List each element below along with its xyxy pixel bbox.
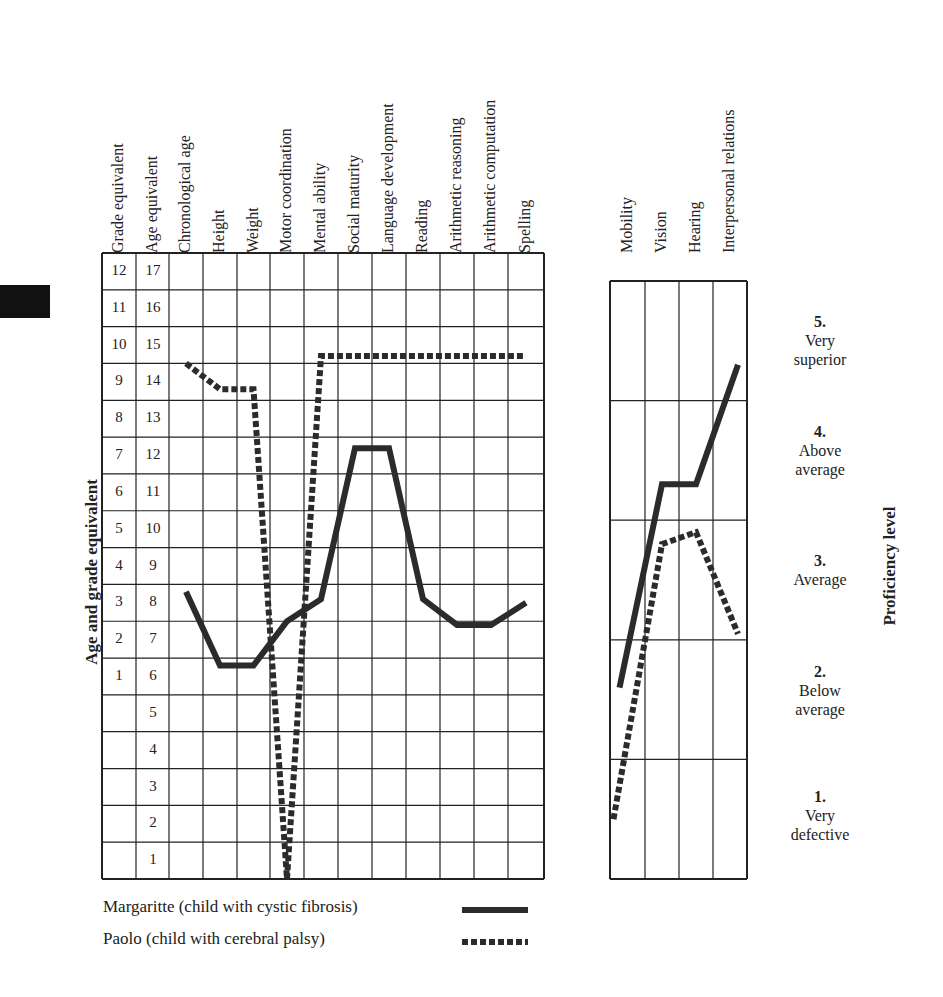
legend-paolo: Paolo (child with cerebral palsy) xyxy=(103,929,325,949)
proficiency-line-paolo xyxy=(614,532,739,819)
chart-canvas xyxy=(0,0,943,997)
legend-margaritte: Margaritte (child with cystic fibrosis) xyxy=(103,897,358,917)
